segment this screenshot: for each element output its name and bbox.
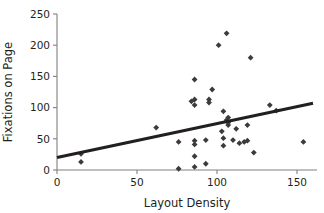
y-tick-label: 0 — [43, 164, 50, 176]
x-tick-label: 50 — [130, 176, 143, 188]
y-tick-group: 050100150200250 — [30, 8, 57, 176]
data-point — [230, 137, 236, 143]
data-point — [209, 87, 215, 93]
data-point — [216, 42, 222, 48]
data-point — [248, 55, 254, 61]
data-point — [267, 102, 273, 108]
data-point — [153, 125, 159, 131]
x-tick-label: 0 — [54, 176, 61, 188]
data-point — [221, 108, 227, 114]
data-point — [176, 166, 182, 172]
data-point — [221, 143, 227, 149]
data-point — [192, 164, 198, 170]
y-tick-label: 50 — [37, 133, 50, 145]
data-point — [251, 150, 257, 156]
x-tick-group: 050100150 — [54, 170, 307, 188]
data-point — [192, 77, 198, 83]
y-tick-label: 250 — [30, 8, 50, 20]
trendline — [57, 103, 313, 157]
x-axis-title: Layout Density — [144, 196, 231, 210]
data-point — [221, 135, 227, 141]
x-axis: 050100150 — [54, 170, 317, 188]
data-point — [203, 161, 209, 167]
data-point — [192, 153, 198, 159]
x-tick-label: 150 — [287, 176, 307, 188]
x-tick-label: 100 — [207, 176, 227, 188]
data-point — [206, 100, 212, 106]
data-point — [78, 159, 84, 165]
data-point — [237, 140, 243, 146]
data-point — [224, 30, 230, 36]
data-point — [203, 137, 209, 143]
y-axis-title: Fixations on Page — [1, 42, 15, 142]
y-tick-label: 200 — [30, 39, 50, 51]
data-point — [192, 142, 198, 148]
y-axis: 050100150200250 — [30, 8, 57, 176]
data-point — [301, 139, 307, 145]
data-point — [219, 128, 225, 134]
data-point-group — [78, 30, 306, 171]
data-point — [233, 126, 239, 132]
chart-canvas: 050100150200250 050100150 Layout Density… — [0, 0, 324, 213]
y-tick-label: 150 — [30, 70, 50, 82]
data-point — [245, 122, 251, 128]
data-point — [176, 139, 182, 145]
y-tick-label: 100 — [30, 101, 50, 113]
scatter-chart: 050100150200250 050100150 Layout Density… — [0, 0, 324, 213]
